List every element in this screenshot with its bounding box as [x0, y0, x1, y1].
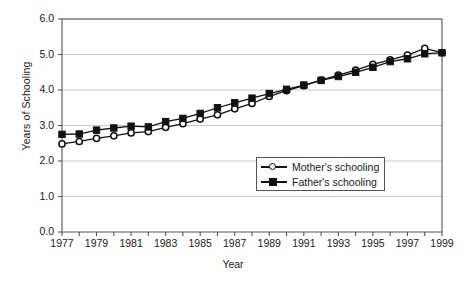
- data-point-marker-square: [422, 51, 428, 57]
- data-point-marker-square: [214, 105, 220, 111]
- data-point-marker-circle: [59, 141, 65, 147]
- data-point-marker-square: [283, 86, 289, 92]
- data-point-marker-square: [111, 125, 117, 131]
- data-point-marker-square: [59, 131, 65, 137]
- data-point-marker-square: [180, 115, 186, 121]
- data-point-marker-circle: [232, 106, 238, 112]
- data-point-marker-square: [145, 124, 151, 130]
- data-point-marker-square: [249, 95, 255, 101]
- data-point-marker-square: [232, 100, 238, 106]
- data-point-marker-circle: [111, 133, 117, 139]
- data-point-marker-circle: [93, 135, 99, 141]
- data-point-marker-square: [266, 90, 272, 96]
- chart-container: Years of Schooling Year 0.01.02.03.04.05…: [0, 0, 466, 281]
- data-point-marker-square: [318, 77, 324, 83]
- data-point-marker-square: [439, 50, 445, 56]
- data-point-marker-square: [197, 110, 203, 116]
- data-point-marker-square: [162, 118, 168, 124]
- legend-label-father: Father's schooling: [292, 176, 377, 188]
- data-point-marker-square: [93, 127, 99, 133]
- data-point-marker-circle: [214, 112, 220, 118]
- data-point-marker-circle: [128, 130, 134, 136]
- data-point-marker-square: [370, 64, 376, 70]
- plot-area: [0, 0, 466, 281]
- data-point-marker-circle: [76, 138, 82, 144]
- data-point-marker-square: [128, 123, 134, 129]
- data-point-marker-square: [352, 69, 358, 75]
- data-point-marker-square: [387, 58, 393, 64]
- data-point-marker-square: [404, 56, 410, 62]
- legend-item-mother: Mother's schooling: [257, 159, 384, 174]
- filled-square-marker-icon: [261, 176, 287, 187]
- legend-label-mother: Mother's schooling: [292, 161, 379, 173]
- data-point-marker-square: [301, 82, 307, 88]
- legend-item-father: Father's schooling: [257, 174, 384, 189]
- data-point-marker-square: [76, 131, 82, 137]
- chart-legend: Mother's schooling Father's schooling: [256, 157, 385, 191]
- data-point-marker-square: [335, 73, 341, 79]
- series-line-father: [62, 53, 442, 135]
- open-circle-marker-icon: [261, 161, 287, 172]
